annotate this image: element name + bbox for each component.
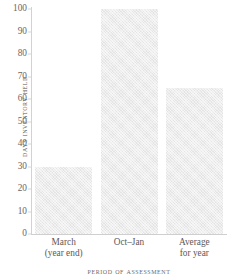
y-axis-tick-label: 100	[13, 4, 27, 13]
y-axis-tick-label: 60	[18, 94, 27, 103]
y-axis-tick-label: 30	[18, 162, 27, 171]
y-axis-tick-label: 50	[18, 117, 27, 126]
x-axis-tick-label-line2: (year end)	[19, 248, 108, 259]
y-axis-tick-label: 40	[18, 139, 27, 148]
y-axis-tick-label: 70	[18, 72, 27, 81]
x-axis-tick-label: Averagefor year	[150, 237, 229, 260]
x-axis-tick-label-line1: Average	[179, 237, 210, 247]
y-axis-tick-label: 10	[18, 207, 27, 216]
x-axis-tick-label-line2: for year	[150, 248, 229, 259]
x-axis-tick-label-line1: March	[52, 237, 76, 247]
y-axis-tick-label: 20	[18, 184, 27, 193]
x-axis-title: Period of Assessment	[31, 267, 227, 276]
y-axis-tick-label: 90	[18, 27, 27, 36]
x-axis-tick-label-line1: Oct–Jan	[114, 237, 144, 247]
bar	[166, 88, 223, 234]
plot-area: 1009080706050403020100	[31, 9, 227, 234]
bar-group	[31, 9, 227, 234]
bar	[101, 9, 158, 234]
bar	[35, 167, 92, 235]
y-axis-tick-label: 80	[18, 49, 27, 58]
bar-chart: Days Inventory Held 10090807060504030201…	[0, 0, 229, 276]
